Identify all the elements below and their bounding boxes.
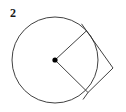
geometry-diagram-canvas — [0, 0, 126, 112]
problem-number-label: 2 — [10, 7, 16, 19]
figure-background — [0, 0, 126, 112]
center-point-dot — [52, 57, 57, 62]
geometry-figure: 2 — [0, 0, 126, 112]
